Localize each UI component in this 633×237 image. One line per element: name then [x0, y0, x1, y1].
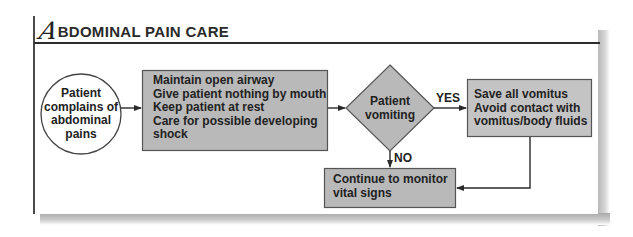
vomiting-care-line: vomitus/body fluids	[474, 115, 587, 129]
care-step: Give patient nothing by mouth	[153, 88, 326, 102]
care-step: Maintain open airway	[153, 74, 326, 88]
start-line: pains	[41, 128, 121, 142]
decision-line: vomiting	[355, 109, 425, 123]
start-text: Patient complains of abdominal pains	[41, 87, 121, 141]
arrow-vomiting-to-monitor	[457, 137, 530, 188]
start-line: abdominal	[41, 114, 121, 128]
start-line: complains of	[41, 101, 121, 115]
decision-text: Patient vomiting	[355, 95, 425, 122]
vomiting-care-line: Avoid contact with	[474, 102, 587, 116]
vomiting-care-text: Save all vomitus Avoid contact with vomi…	[474, 88, 587, 129]
yes-label: YES	[436, 91, 460, 105]
monitor-text: Continue to monitor vital signs	[333, 173, 448, 200]
care-step: Care for possible developing	[153, 115, 326, 129]
no-label: NO	[394, 151, 412, 165]
initial-care-text: Maintain open airway Give patient nothin…	[153, 74, 326, 142]
start-line: Patient	[41, 87, 121, 101]
care-step: shock	[153, 128, 326, 142]
decision-line: Patient	[355, 95, 425, 109]
care-step: Keep patient at rest	[153, 101, 326, 115]
monitor-line: vital signs	[333, 187, 448, 201]
vomiting-care-line: Save all vomitus	[474, 88, 587, 102]
monitor-line: Continue to monitor	[333, 173, 448, 187]
